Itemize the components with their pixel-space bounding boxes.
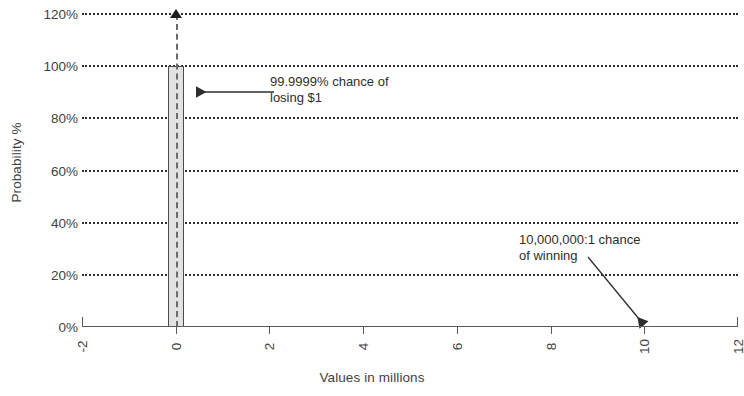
x-axis-tick: -2 <box>75 340 90 352</box>
x-axis-tick: 0 <box>168 343 183 351</box>
y-axis-tick: 60% <box>4 163 78 178</box>
annotation-arrow-losing <box>186 82 276 102</box>
y-axis-cap-left <box>82 317 83 327</box>
y-axis-tick-labels: 0%20%40%60%80%100%120% <box>0 0 78 396</box>
y-axis-tick: 100% <box>4 59 78 74</box>
x-axis-tick: 4 <box>356 343 371 351</box>
annotation-winning-odds: 10,000,000:1 chance of winning <box>519 232 640 264</box>
x-axis-tick: 6 <box>449 343 464 351</box>
y-axis-tick: 40% <box>4 215 78 230</box>
y-axis-tick: 0% <box>4 320 78 335</box>
annotation-arrow-winning <box>586 255 656 335</box>
dashed-stem-line <box>176 14 178 327</box>
y-axis-cap-right <box>737 317 738 327</box>
x-axis-tick: 12 <box>731 339 744 354</box>
x-axis-tick: 8 <box>543 343 558 351</box>
x-axis-tick-labels: -2024681012 <box>82 327 738 373</box>
y-axis-tick: 80% <box>4 111 78 126</box>
peak-marker-icon <box>170 9 182 18</box>
plot-area <box>82 14 738 327</box>
x-axis-title: Values in millions <box>0 370 744 385</box>
x-axis-tick: 10 <box>637 339 652 354</box>
y-axis-tick: 120% <box>4 7 78 22</box>
annotation-losing-dollar: 99.9999% chance of losing $1 <box>270 74 389 106</box>
probability-chart: Probability % 0%20%40%60%80%100%120% <box>0 0 744 396</box>
x-axis-tick: 2 <box>262 343 277 351</box>
y-axis-tick: 20% <box>4 267 78 282</box>
